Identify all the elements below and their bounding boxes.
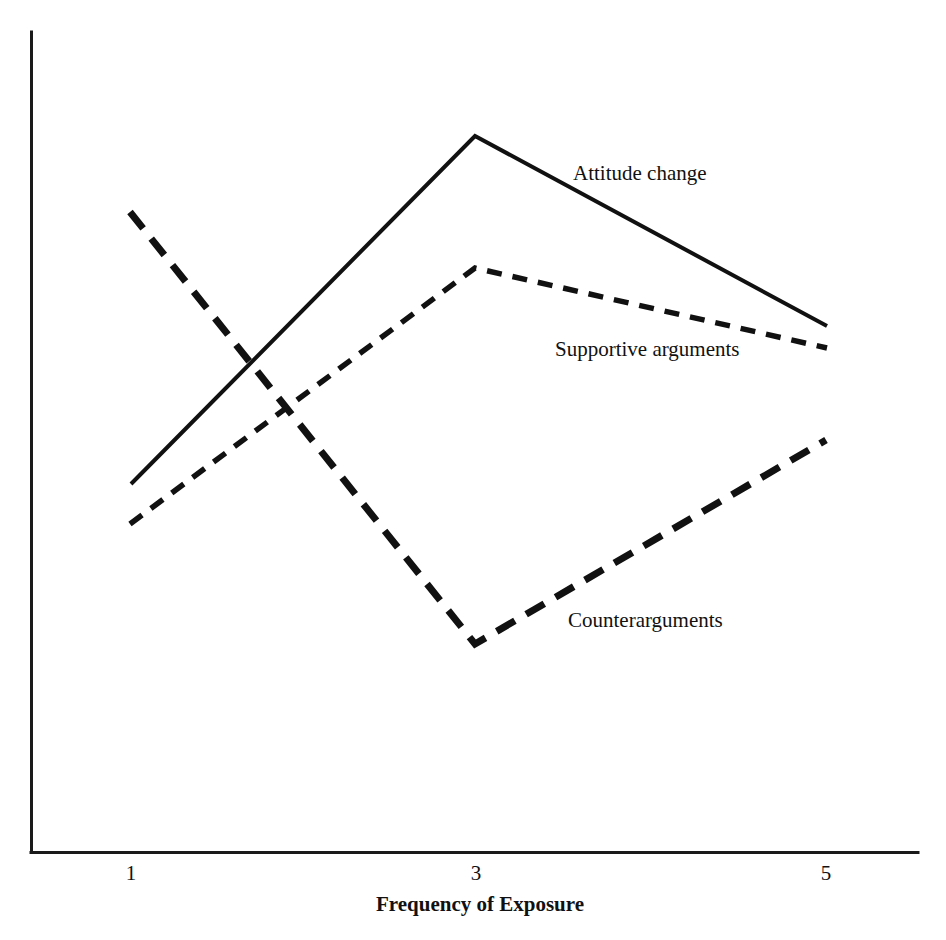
series-label-supportive-arguments: Supportive arguments: [555, 337, 740, 361]
series-label-attitude-change: Attitude change: [573, 161, 707, 185]
figure-container: Attitude change Supportive arguments Cou…: [0, 0, 946, 940]
x-tick-label-3: 3: [471, 861, 482, 885]
x-axis-title: Frequency of Exposure: [376, 892, 584, 916]
x-tick-label-5: 5: [821, 861, 832, 885]
series-line-counterarguments: [130, 212, 826, 644]
x-tick-label-1: 1: [126, 861, 137, 885]
series-line-attitude-change: [131, 136, 827, 484]
series-label-counterarguments: Counterarguments: [568, 608, 723, 632]
line-chart: Attitude change Supportive arguments Cou…: [0, 0, 946, 940]
series-line-supportive-arguments: [130, 268, 827, 524]
